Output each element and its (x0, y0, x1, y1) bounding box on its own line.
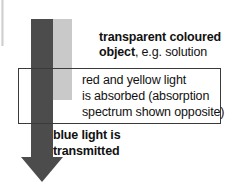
object-label-suffix: , e.g. solution (135, 45, 207, 59)
object-label-line1: transparent coloured (99, 30, 221, 45)
transmitted-label-line2: transmitted (53, 143, 121, 159)
absorption-label-line2: is absorbed (absorption (82, 88, 224, 104)
light-absorption-diagram: transparent coloured object, e.g. soluti… (0, 0, 241, 194)
scan-edge-artifact (1, 0, 4, 46)
absorption-label-line1: red and yellow light (82, 72, 224, 88)
object-label-bold: object (99, 45, 135, 59)
light-beam-arrow-head (21, 157, 63, 182)
object-label-line2: object, e.g. solution (99, 45, 221, 60)
transmitted-label: blue light is transmitted (53, 127, 121, 159)
object-label: transparent coloured object, e.g. soluti… (99, 30, 221, 60)
transmitted-label-line1: blue light is (53, 127, 121, 143)
absorption-label-line3: spectrum shown opposite) (82, 104, 224, 120)
absorption-label: red and yellow light is absorbed (absorp… (82, 72, 224, 120)
